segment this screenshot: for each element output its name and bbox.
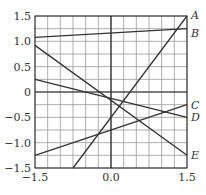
series-label-a: A xyxy=(190,9,199,22)
series-label-d: D xyxy=(190,111,200,124)
tick-labels: −1.50.01.51.51.00.50−0.5−1.0−1.5 xyxy=(4,10,195,184)
y-tick-label: 0.5 xyxy=(14,61,32,74)
y-tick-label: 1.5 xyxy=(14,10,32,23)
y-tick-label: −1.5 xyxy=(4,162,31,175)
series-label-b: B xyxy=(190,27,199,40)
x-tick-label: 1.5 xyxy=(178,171,196,184)
y-tick-label: −0.5 xyxy=(4,111,31,124)
series-labels: ABCDE xyxy=(190,9,200,162)
y-tick-label: 0 xyxy=(24,86,31,99)
y-tick-label: 1.0 xyxy=(14,35,32,48)
y-tick-label: −1.0 xyxy=(4,137,31,150)
x-tick-label: 0.0 xyxy=(102,171,120,184)
series-label-e: E xyxy=(190,149,199,162)
grid xyxy=(35,16,187,168)
line-chart: −1.50.01.51.51.00.50−0.5−1.0−1.5 ABCDE xyxy=(0,0,206,195)
series-label-c: C xyxy=(191,99,200,112)
